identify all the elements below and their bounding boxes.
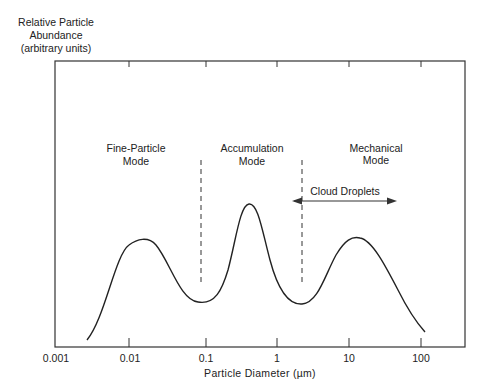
x-tick-0.1: 0.1 [199, 352, 214, 364]
x-tick-0.01: 0.01 [120, 352, 141, 364]
x-tick-1: 1 [274, 352, 280, 364]
x-tick-10: 10 [343, 352, 355, 364]
accumulation-label-2: Mode [239, 155, 265, 167]
x-tick-0.001: 0.001 [43, 352, 69, 364]
x-axis-title: Particle Diameter (µm) [204, 367, 316, 379]
chart: 0.001 0.01 0.1 1 10 100 Particle Diamete… [0, 0, 478, 380]
mechanical-label-2: Mode [363, 154, 389, 166]
fine-particle-label-2: Mode [123, 155, 149, 167]
cloud-droplets-arrow [292, 198, 397, 205]
plot-frame [55, 61, 465, 347]
fine-particle-label-1: Fine-Particle [107, 142, 166, 154]
abundance-curve [87, 204, 425, 340]
accumulation-label-1: Accumulation [220, 142, 283, 154]
bottom-ticks [129, 338, 421, 347]
mechanical-label-1: Mechanical [349, 142, 402, 154]
x-tick-100: 100 [412, 352, 430, 364]
x-tick-labels: 0.001 0.01 0.1 1 10 100 [43, 352, 430, 364]
top-ticks [129, 61, 421, 67]
cloud-droplets-label: Cloud Droplets [310, 185, 379, 197]
